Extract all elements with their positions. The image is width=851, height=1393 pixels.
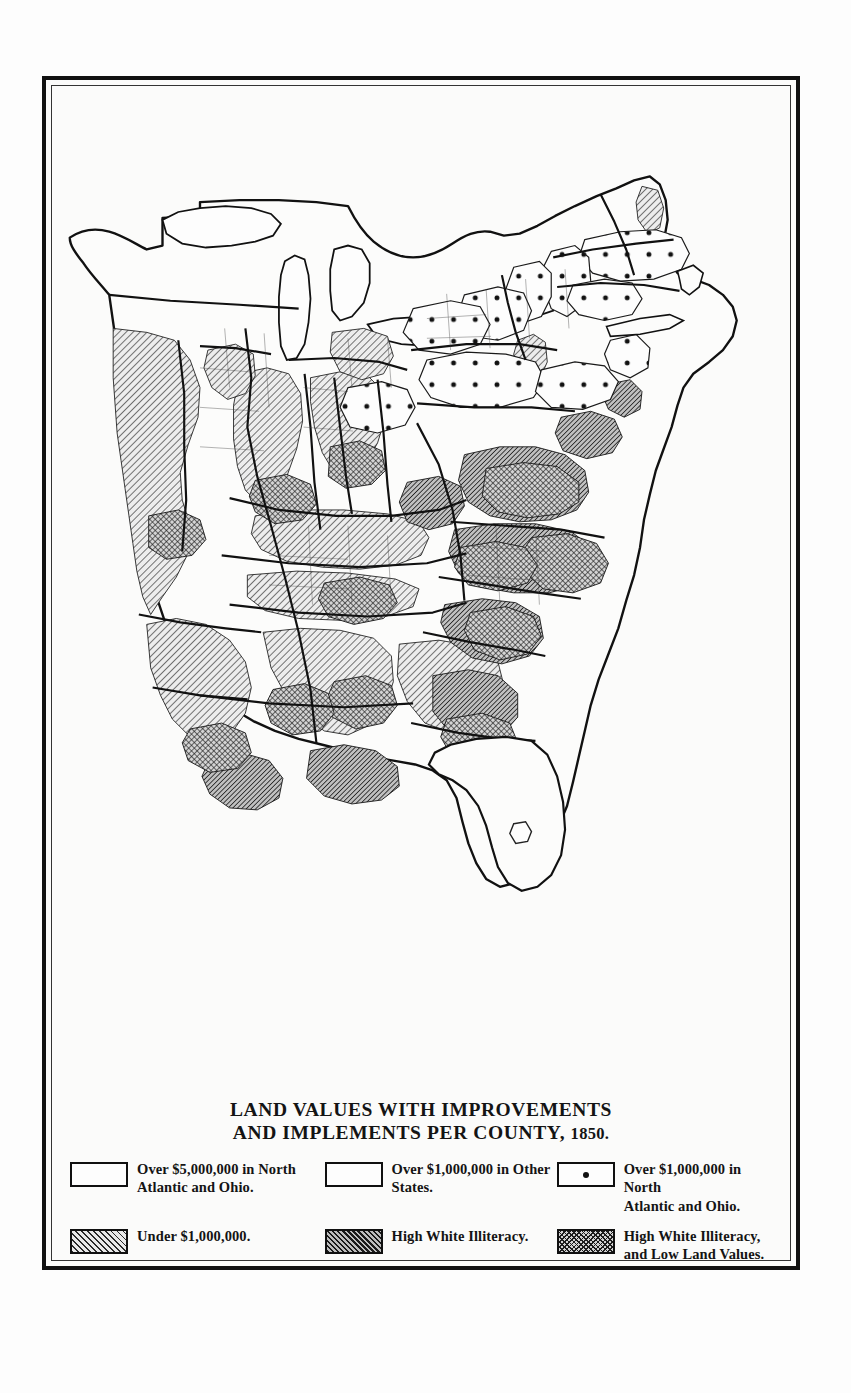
legend-item-over-1m-north-atlantic-ohio[interactable]: Over $1,000,000 in North Atlantic and Oh…	[557, 1160, 778, 1215]
map-title-block: LAND VALUES WITH IMPROVEMENTS AND IMPLEM…	[52, 1098, 790, 1144]
region-maryland-illiteracy	[555, 411, 622, 458]
legend-swatch-blank-north-atlantic-ohio	[70, 1162, 128, 1187]
legend-swatch-dotted-north-atlantic-ohio	[557, 1162, 615, 1187]
legend-swatch-dense-high-illiteracy	[325, 1229, 383, 1254]
region-pennsylvania-north-dots	[419, 352, 545, 407]
legend-item-over-5m-north-atlantic-ohio[interactable]: Over $5,000,000 in North Atlantic and Oh…	[64, 1160, 325, 1215]
lake-okeechobee	[510, 822, 532, 844]
region-michigan-fringe	[330, 328, 393, 379]
map-plate: LAND VALUES WITH IMPROVEMENTS AND IMPLEM…	[42, 76, 800, 1270]
map-plate-inner-border: LAND VALUES WITH IMPROVEMENTS AND IMPLEM…	[51, 85, 791, 1261]
legend-label-under-1m: Under $1,000,000.	[137, 1227, 250, 1245]
legend-row-2: Under $1,000,000. High White Illiteracy.…	[64, 1227, 778, 1261]
map-title-line-2-text: AND IMPLEMENTS PER COUNTY,	[233, 1122, 565, 1143]
map-canvas[interactable]	[52, 86, 790, 926]
legend-row-1: Over $5,000,000 in North Atlantic and Oh…	[64, 1160, 778, 1215]
legend-label-high-illiteracy-low-land: High White Illiteracy, and Low Land Valu…	[624, 1227, 765, 1261]
map-legend: Over $5,000,000 in North Atlantic and Oh…	[64, 1160, 778, 1261]
legend-swatch-blank-other-states	[325, 1162, 383, 1187]
legend-label-over-1m-north-atlantic-ohio: Over $1,000,000 in North Atlantic and Oh…	[624, 1160, 778, 1215]
legend-item-under-1m[interactable]: Under $1,000,000.	[64, 1227, 325, 1261]
legend-item-high-illiteracy-low-land[interactable]: High White Illiteracy, and Low Land Valu…	[557, 1227, 778, 1261]
map-title-line-2: AND IMPLEMENTS PER COUNTY, 1850.	[52, 1121, 790, 1144]
legend-label-high-white-illiteracy: High White Illiteracy.	[392, 1227, 529, 1245]
legend-item-high-white-illiteracy[interactable]: High White Illiteracy.	[325, 1227, 557, 1261]
map-title-year: 1850.	[571, 1124, 610, 1143]
map-title-line-1: LAND VALUES WITH IMPROVEMENTS	[52, 1098, 790, 1121]
legend-label-over-1m-other-states: Over $1,000,000 in Other States.	[392, 1160, 551, 1197]
eastern-us-county-map[interactable]	[52, 86, 790, 926]
legend-item-over-1m-other-states[interactable]: Over $1,000,000 in Other States.	[325, 1160, 557, 1215]
legend-swatch-cross-illiteracy-low-land	[557, 1229, 615, 1254]
legend-swatch-hatch-under-one-million	[70, 1229, 128, 1254]
region-carolina-inner-cross	[455, 542, 538, 591]
region-louisiana-delta-cross	[182, 723, 251, 772]
legend-label-over-5m-north-atlantic-ohio: Over $5,000,000 in North Atlantic and Oh…	[137, 1160, 296, 1197]
